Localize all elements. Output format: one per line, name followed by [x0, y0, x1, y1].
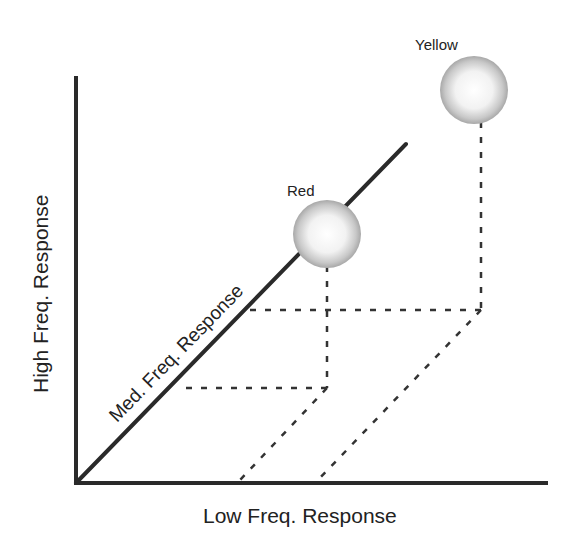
- axes: [76, 78, 546, 483]
- diagram-canvas: Red Yellow Low Freq. Response High Freq.…: [0, 0, 577, 559]
- red-label: Red: [287, 182, 315, 199]
- x-axis-label: Low Freq. Response: [203, 504, 397, 527]
- z-axis-label: Med. Freq. Response: [105, 280, 247, 426]
- z-axis-diagonal: [76, 144, 406, 483]
- yellow-sphere: [440, 56, 508, 124]
- yellow-label: Yellow: [415, 36, 458, 53]
- red-sphere: [293, 200, 361, 268]
- y-axis-label: High Freq. Response: [29, 195, 52, 393]
